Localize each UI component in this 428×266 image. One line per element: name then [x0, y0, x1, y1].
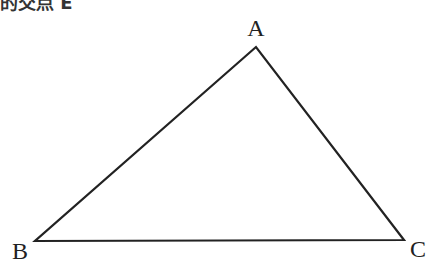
triangle-abc — [35, 47, 404, 241]
vertex-label-b: B — [12, 238, 28, 264]
triangle-diagram: A B C — [0, 0, 428, 266]
vertex-label-c: C — [410, 236, 426, 262]
vertex-label-a: A — [247, 15, 265, 41]
